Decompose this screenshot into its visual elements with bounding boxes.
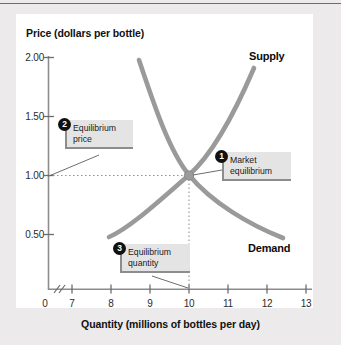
annotation-callout-equilibrium-quantity: Equilibrium quantity [120, 244, 190, 273]
annotation-2-line2: price [73, 134, 128, 145]
annotation-callout-market-equilibrium: Market equilibrium [222, 152, 291, 181]
callout-3-leader [152, 276, 188, 288]
annotation-3-line2: quantity [128, 258, 185, 269]
callout-2-leader [49, 155, 99, 176]
annotation-1-line2: equilibrium [230, 166, 286, 177]
annotation-3-line1: Equilibrium [128, 247, 185, 258]
figure-container: Price (dollars per bottle) Quantity (mil… [0, 0, 341, 345]
annotation-2-line1: Equilibrium [73, 123, 128, 134]
annotation-badge-1: 1 [215, 150, 228, 163]
supply-curve-label: Supply [249, 50, 284, 62]
demand-curve-label: Demand [248, 242, 290, 254]
annotation-callout-equilibrium-price: Equilibrium price [65, 120, 133, 149]
equilibrium-point-marker [184, 171, 193, 180]
annotation-badge-3: 3 [113, 242, 126, 255]
annotation-1-line1: Market [230, 155, 286, 166]
annotation-badge-2: 2 [58, 118, 71, 131]
callout-1-leader [193, 170, 222, 175]
